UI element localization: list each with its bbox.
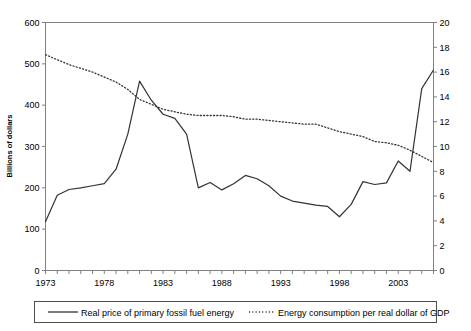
y-axis-left-tick-label: 0 [34, 266, 39, 276]
legend-label-energy-consumption: Energy consumption per real dollar of GD… [278, 308, 450, 318]
y-axis-right-tick-label: 4 [440, 216, 445, 226]
x-axis-ticks [46, 271, 434, 275]
plot-area-frame [46, 23, 434, 271]
y-axis-left-tick-label: 100 [24, 224, 39, 234]
x-axis-tick-label: 1988 [212, 278, 232, 288]
x-axis-tick-label: 1978 [94, 278, 114, 288]
y-axis-left-tick-label: 500 [24, 59, 39, 69]
y-axis-right-tick-label: 14 [440, 92, 450, 102]
x-axis-tick-label: 1983 [153, 278, 173, 288]
dual-axis-line-chart: 0100200300400500600 02468101214161820 19… [0, 0, 471, 331]
x-axis-tick-label: 1998 [329, 278, 349, 288]
x-axis-tick-labels: 1973197819831988199319982003 [35, 278, 408, 288]
x-axis-tick-label: 1973 [35, 278, 55, 288]
y-axis-left-tick-label: 400 [24, 100, 39, 110]
x-axis-tick-label: 2003 [388, 278, 408, 288]
y-axis-right-tick-label: 0 [440, 266, 445, 276]
y-axis-right-tick-labels: 02468101214161820 [440, 18, 450, 276]
series-energy-consumption-per-real-dollar-of-gdp [46, 55, 434, 163]
y-axis-right-tick-label: 2 [440, 241, 445, 251]
y-axis-right-tick-label: 8 [440, 167, 445, 177]
y-axis-left-tick-label: 300 [24, 142, 39, 152]
y-axis-left-ticks [42, 23, 46, 271]
y-axis-right-tick-label: 18 [440, 43, 450, 53]
y-axis-right-tick-label: 12 [440, 117, 450, 127]
y-axis-right-tick-label: 10 [440, 142, 450, 152]
y-axis-right-tick-label: 6 [440, 191, 445, 201]
y-axis-right-tick-label: 16 [440, 67, 450, 77]
y-axis-left-title: Billions of dollars [5, 115, 14, 178]
chart-container: 0100200300400500600 02468101214161820 19… [0, 0, 471, 331]
y-axis-right-ticks [434, 23, 438, 271]
y-axis-left-tick-label: 600 [24, 18, 39, 28]
chart-legend: Real price of primary fossil fuel energy… [35, 302, 450, 323]
legend-label-fossil-fuel-price: Real price of primary fossil fuel energy [81, 308, 235, 318]
y-axis-left-tick-label: 200 [24, 183, 39, 193]
series-real-price-of-primary-fossil-fuel-energy [46, 70, 434, 222]
y-axis-right-tick-label: 20 [440, 18, 450, 28]
x-axis-tick-label: 1993 [271, 278, 291, 288]
y-axis-left-tick-labels: 0100200300400500600 [24, 18, 39, 276]
